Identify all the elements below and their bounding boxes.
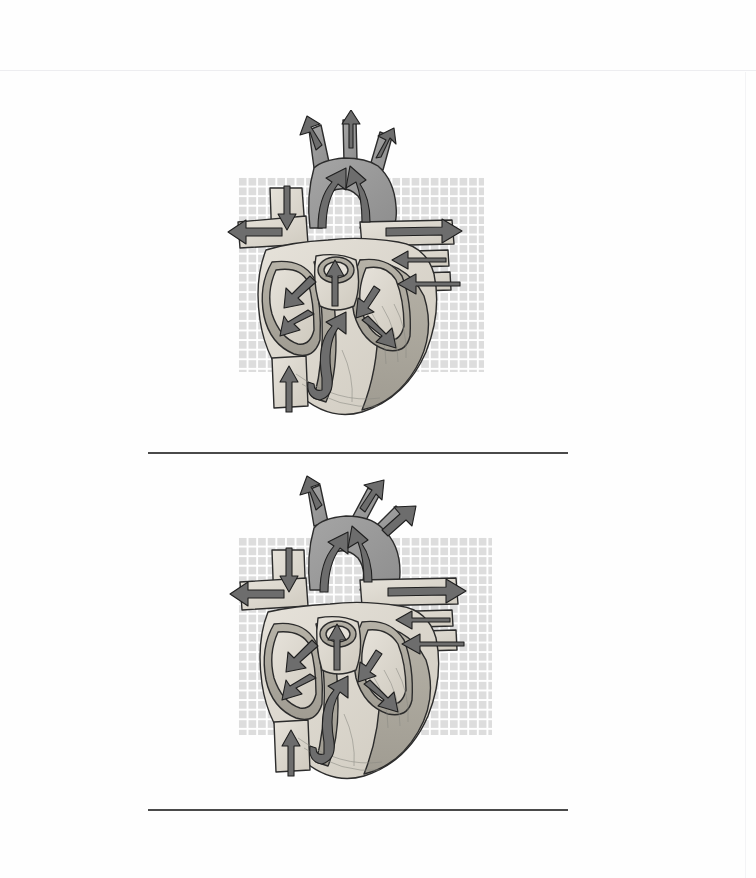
header-rule	[0, 70, 756, 71]
document-page	[0, 0, 756, 878]
figure-1	[0, 110, 756, 430]
answer-line-1[interactable]	[148, 452, 568, 454]
answer-line-2[interactable]	[148, 809, 568, 811]
figure-2	[0, 472, 756, 792]
figure-2-heart-illustration	[210, 472, 510, 792]
figure-1-heart-illustration	[210, 110, 510, 430]
